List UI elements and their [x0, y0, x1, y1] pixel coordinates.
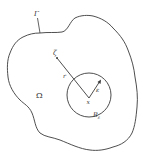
domain-label: Ω [36, 91, 43, 100]
center-x-label: x [87, 98, 91, 105]
domain-diagram: Γ ζ r ε x Ω Bε [0, 0, 150, 157]
ball-label-sub: ε [98, 115, 101, 120]
boundary-curve [7, 15, 137, 150]
epsilon-label: ε [96, 86, 99, 93]
boundary-label: Γ [33, 10, 40, 18]
ball-circle [67, 73, 111, 117]
radius-r-label: r [63, 72, 67, 79]
radius-r-line [57, 58, 89, 98]
zeta-point [56, 57, 58, 59]
ball-label: Bε [92, 111, 101, 120]
boundary-pointer-line [38, 18, 41, 33]
zeta-label: ζ [53, 49, 58, 57]
